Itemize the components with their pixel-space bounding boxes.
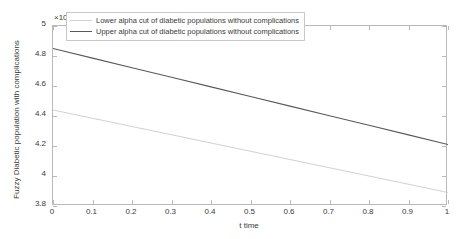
y-axis-tick <box>53 86 57 87</box>
x-axis-tick <box>330 26 331 30</box>
x-axis-tick-label: 0.6 <box>283 207 294 216</box>
legend-item-label: Lower alpha cut of diabetic populations … <box>96 15 299 26</box>
x-axis-tick-label: 0.5 <box>244 207 255 216</box>
x-axis-tick <box>409 26 410 30</box>
x-axis-title: t time <box>239 221 259 230</box>
x-axis-tick <box>132 200 133 204</box>
x-axis-tick-label: 0.8 <box>362 207 373 216</box>
x-axis-tick <box>251 200 252 204</box>
x-axis-tick <box>448 26 449 30</box>
x-axis-tick-label: 0.9 <box>402 207 413 216</box>
y-axis-tick <box>442 86 446 87</box>
chart-legend[interactable]: Lower alpha cut of diabetic populations … <box>66 12 305 41</box>
x-axis-tick <box>172 200 173 204</box>
x-axis-tick-label: 0.2 <box>125 207 136 216</box>
y-axis-tick <box>442 116 446 117</box>
x-axis-tick <box>93 200 94 204</box>
x-axis-tick <box>369 200 370 204</box>
x-axis-tick-label: 0.1 <box>86 207 97 216</box>
x-axis-tick <box>211 200 212 204</box>
legend-item[interactable]: Upper alpha cut of diabetic populations … <box>70 26 299 37</box>
x-axis-tick-label: 0.3 <box>165 207 176 216</box>
x-axis-tick <box>448 200 449 204</box>
y-axis-tick <box>442 56 446 57</box>
y-axis-tick <box>442 176 446 177</box>
y-axis-tick <box>53 146 57 147</box>
x-axis-tick-label: 0 <box>50 207 54 216</box>
series-line <box>53 110 448 193</box>
y-axis-tick <box>53 26 57 27</box>
x-axis-tick <box>290 200 291 204</box>
x-axis-tick <box>369 26 370 30</box>
legend-line-swatch <box>70 31 92 32</box>
y-axis-tick <box>442 26 446 27</box>
x-axis-tick <box>409 200 410 204</box>
legend-line-swatch <box>70 20 92 21</box>
x-axis-tick-label: 0.4 <box>204 207 215 216</box>
y-axis-title: Fuzzy Diabetic population with complicat… <box>12 35 21 205</box>
plot-area <box>52 25 447 205</box>
x-axis-tick <box>330 200 331 204</box>
series-line <box>53 49 448 145</box>
x-axis-tick-label: 1 <box>445 207 449 216</box>
figure: ×107 Fuzzy Diabetic population with comp… <box>0 0 470 239</box>
y-axis-tick <box>53 176 57 177</box>
legend-item-label: Upper alpha cut of diabetic populations … <box>96 26 299 37</box>
y-axis-tick <box>53 56 57 57</box>
data-lines <box>53 26 448 206</box>
x-axis-tick <box>53 200 54 204</box>
legend-item[interactable]: Lower alpha cut of diabetic populations … <box>70 15 299 26</box>
x-axis-tick-label: 0.7 <box>323 207 334 216</box>
y-axis-tick <box>53 116 57 117</box>
y-axis-tick <box>442 146 446 147</box>
